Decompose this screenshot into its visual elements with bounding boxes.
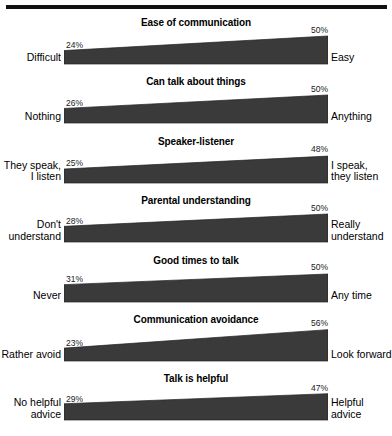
- left-anchor-label: Never: [0, 290, 61, 302]
- right-anchor-label: Easy: [331, 52, 392, 64]
- top-rule-divider: [6, 5, 387, 9]
- right-percentage-label: 50%: [311, 26, 328, 35]
- chart-panel: Talk is helpful29%47%No helpful adviceHe…: [0, 370, 392, 429]
- wedge-plot: [64, 16, 328, 65]
- left-anchor-label: Rather avoid: [0, 349, 61, 361]
- wedge-plot: [64, 75, 328, 124]
- right-anchor-label: Any time: [331, 290, 392, 302]
- left-percentage-label: 28%: [66, 217, 83, 226]
- wedge-bar: [64, 394, 328, 420]
- right-anchor-label: Anything: [331, 111, 392, 123]
- left-percentage-label: 31%: [66, 275, 83, 284]
- wedge-bar: [64, 36, 328, 64]
- right-percentage-label: 47%: [311, 384, 328, 393]
- figure-canvas: Ease of communication24%50%DifficultEasy…: [0, 0, 392, 436]
- wedge-plot: [64, 313, 328, 362]
- left-percentage-label: 26%: [66, 99, 83, 108]
- chart-panel: Ease of communication24%50%DifficultEasy: [0, 14, 392, 73]
- chart-panel: Can talk about things26%50%NothingAnythi…: [0, 73, 392, 132]
- chart-panel: Communication avoidance23%56%Rather avoi…: [0, 311, 392, 370]
- right-percentage-label: 50%: [311, 263, 328, 272]
- left-percentage-label: 24%: [66, 41, 83, 50]
- left-anchor-label: Don't understand: [0, 219, 61, 242]
- wedge-plot: [64, 254, 328, 303]
- left-anchor-label: Difficult: [0, 52, 61, 64]
- right-anchor-label: Really understand: [331, 219, 392, 242]
- right-percentage-label: 56%: [311, 319, 328, 328]
- right-anchor-label: I speak, they listen: [331, 160, 392, 183]
- left-anchor-label: They speak, I listen: [0, 160, 61, 183]
- wedge-bar: [64, 156, 328, 183]
- wedge-plot: [64, 135, 328, 184]
- wedge-bar: [64, 330, 328, 361]
- chart-panel: Speaker-listener25%48%They speak, I list…: [0, 133, 392, 192]
- wedge-bar: [64, 214, 328, 242]
- left-percentage-label: 29%: [66, 395, 83, 404]
- right-percentage-label: 50%: [311, 204, 328, 213]
- left-percentage-label: 23%: [66, 339, 83, 348]
- left-anchor-label: Nothing: [0, 111, 61, 123]
- chart-panel: Good times to talk31%50%NeverAny time: [0, 252, 392, 311]
- wedge-bar: [64, 274, 328, 302]
- chart-panel: Parental understanding28%50%Don't unders…: [0, 192, 392, 251]
- wedge-plot: [64, 194, 328, 243]
- left-anchor-label: No helpful advice: [0, 397, 61, 420]
- right-anchor-label: Look forward: [331, 349, 392, 361]
- wedge-plot: [64, 372, 328, 421]
- left-percentage-label: 25%: [66, 159, 83, 168]
- right-percentage-label: 48%: [311, 145, 328, 154]
- right-percentage-label: 50%: [311, 85, 328, 94]
- wedge-bar: [64, 95, 328, 123]
- right-anchor-label: Helpful advice: [331, 397, 392, 420]
